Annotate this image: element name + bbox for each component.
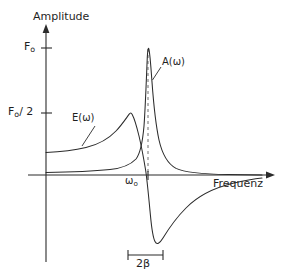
- y-tick-label-f0-sub: o: [30, 45, 35, 54]
- curve-label-e-omega: E(ω): [72, 113, 95, 123]
- y-axis-arrow-icon: [43, 24, 50, 33]
- y-tick-label-f0: Fo: [24, 41, 35, 54]
- y-tick-label-f0-half: Fo/ 2: [8, 106, 33, 119]
- linewidth-label-2beta: 2β: [136, 258, 150, 269]
- y-axis-label: Amplitude: [33, 11, 89, 22]
- x-tick-label-omega0: ωo: [125, 176, 138, 187]
- x-axis-arrow-icon: [266, 172, 275, 179]
- x-tick-label-omega0-sub: o: [133, 179, 137, 188]
- figure-container: Amplitude Frequenz Fo Fo/ 2 A(ω) E(ω) ωo…: [0, 0, 297, 280]
- plot-canvas: [0, 0, 297, 280]
- curve-label-a-omega: A(ω): [162, 57, 185, 67]
- x-axis-label: Frequenz: [213, 178, 263, 189]
- e-omega-leader-line: [82, 126, 95, 146]
- a-omega-leader-line: [153, 67, 162, 80]
- y-tick-label-f0-half-suffix: / 2: [19, 105, 33, 118]
- y-axis: [43, 24, 50, 262]
